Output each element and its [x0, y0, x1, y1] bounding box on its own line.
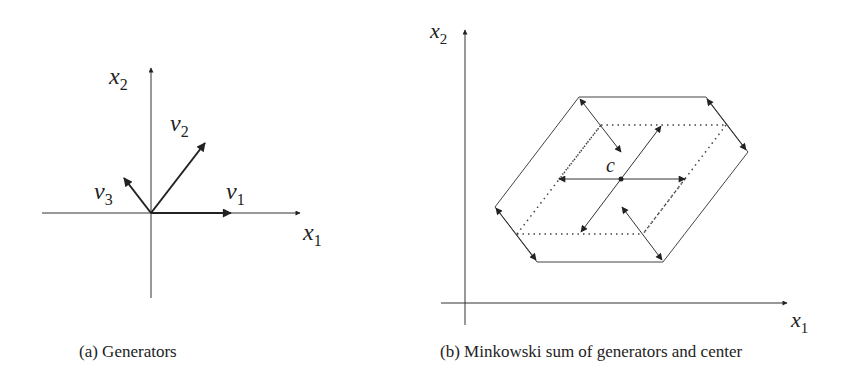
v3-double-arrow-top-right [707, 99, 746, 150]
caption-a: (a) Generators [79, 342, 177, 361]
vector-v2 [151, 143, 205, 213]
center-v2-arrow [621, 126, 661, 179]
v3-double-arrow-bottom-left [496, 208, 536, 260]
v2-label: v2 [170, 110, 189, 140]
v1-label: v1 [226, 178, 245, 208]
caption-b: (b) Minkowski sum of generators and cent… [440, 342, 742, 361]
panel-b-minkowski-sum: c x2 x1 (b) Minkowski sum of generators … [429, 18, 808, 361]
panel-a-generators: x2 x1 v1 v2 v3 (a) Generators [42, 63, 322, 361]
figure-canvas: x2 x1 v1 v2 v3 (a) Generators [0, 0, 849, 368]
x1-axis-label: x1 [790, 307, 808, 336]
center-label: c [606, 154, 615, 176]
x2-axis-label: x2 [108, 63, 128, 93]
center-point [619, 177, 624, 182]
x1-axis-label: x1 [302, 219, 322, 249]
center-neg-v2-arrow [581, 179, 621, 232]
v3-label: v3 [94, 178, 113, 208]
vector-v3 [124, 178, 151, 213]
x2-axis-label: x2 [429, 18, 447, 47]
